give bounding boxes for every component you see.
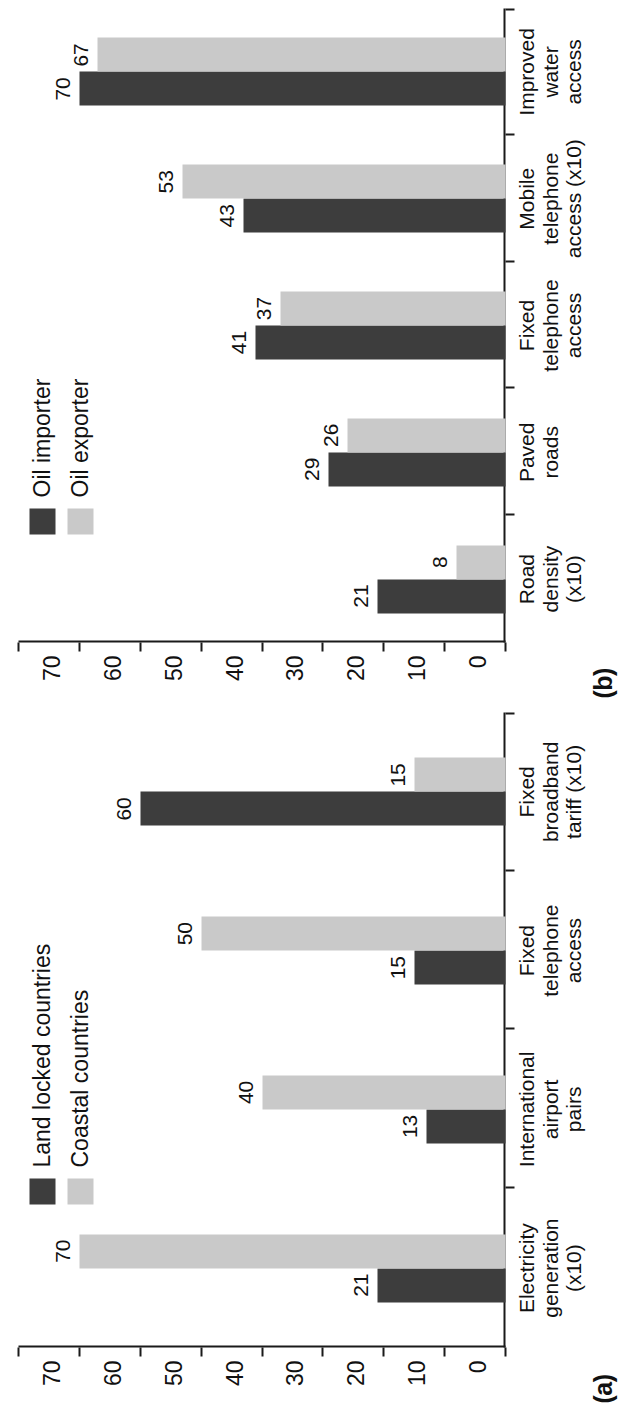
y-axis-tick <box>78 642 80 651</box>
x-axis-tick <box>505 386 514 388</box>
bar: 50 <box>201 916 505 950</box>
bar: 29 <box>328 452 505 486</box>
x-axis-tick-end <box>505 8 514 10</box>
y-axis-tick-label: 0 <box>465 1360 492 1373</box>
y-axis-tick-label: 50 <box>160 1360 187 1386</box>
y-axis-tick <box>139 1347 141 1356</box>
bar: 26 <box>347 418 505 452</box>
bar-value-label: 8 <box>427 556 451 568</box>
bar-value-label: 70 <box>50 1239 74 1262</box>
y-axis-tick-label: 20 <box>343 655 370 681</box>
bar: 21 <box>377 579 505 613</box>
bar: 67 <box>97 37 505 71</box>
y-axis-tick <box>17 1347 19 1356</box>
panel-a-plot: 010203040506070802170Electricity generat… <box>18 712 505 1347</box>
y-axis-tick-label: 40 <box>221 655 248 681</box>
bar-group: 218 <box>18 515 505 642</box>
category-label: Fixed telephone access <box>514 279 585 371</box>
bar-group: 2170 <box>18 1188 505 1347</box>
bar-value-label: 37 <box>251 296 275 319</box>
y-axis-tick <box>443 642 445 651</box>
y-axis-tick-label: 10 <box>404 655 431 681</box>
y-axis-tick <box>321 1347 323 1356</box>
y-axis-tick <box>200 642 202 651</box>
x-axis-tick <box>505 260 514 262</box>
bar: 60 <box>140 791 505 825</box>
y-axis-tick-label: 40 <box>221 1360 248 1386</box>
bar: 43 <box>243 198 505 232</box>
panel-a-tag: (a) <box>588 1374 617 1403</box>
y-axis-tick-label: 80 <box>0 655 5 681</box>
category-label: Paved roads <box>514 422 561 482</box>
bar-value-label: 67 <box>68 43 92 66</box>
bar: 70 <box>79 71 505 105</box>
category-label: Mobile telephone access (x10) <box>514 139 585 258</box>
x-axis-tick <box>505 869 514 871</box>
bar: 41 <box>255 325 505 359</box>
panel-b-plot: 01020304050607080218Road density (x10)29… <box>18 8 505 642</box>
y-axis-tick-label: 70 <box>38 655 65 681</box>
bar: 13 <box>426 1109 505 1143</box>
y-axis-tick-label: 70 <box>38 1360 65 1386</box>
y-axis-tick <box>261 1347 263 1356</box>
bar: 8 <box>456 545 505 579</box>
y-axis-tick-label: 30 <box>282 655 309 681</box>
bar-value-label: 53 <box>153 170 177 193</box>
bar-value-label: 40 <box>233 1080 257 1103</box>
category-label: International airport pairs <box>514 1051 585 1167</box>
bar-value-label: 70 <box>50 77 74 100</box>
y-axis-tick-label: 0 <box>465 655 492 668</box>
bar-value-label: 43 <box>214 204 238 227</box>
y-axis-tick <box>78 1347 80 1356</box>
y-axis-tick <box>504 1347 506 1356</box>
bar-group: 6015 <box>18 712 505 871</box>
bar-value-label: 21 <box>348 1273 372 1296</box>
bar-value-label: 60 <box>111 797 135 820</box>
panel-b: (b) Oil importerOil exporter 01020304050… <box>0 0 623 704</box>
bar-group: 1550 <box>18 871 505 1030</box>
bar: 37 <box>280 291 505 325</box>
bar-value-label: 15 <box>385 955 409 978</box>
bar-group: 4137 <box>18 262 505 389</box>
bar: 21 <box>377 1268 505 1302</box>
x-axis-tick <box>505 1028 514 1030</box>
bar-value-label: 13 <box>397 1114 421 1137</box>
bar: 15 <box>414 950 505 984</box>
y-axis-tick <box>443 1347 445 1356</box>
y-axis-tick <box>200 1347 202 1356</box>
bar-group: 4353 <box>18 135 505 262</box>
category-label: Fixed telephone access <box>514 904 585 996</box>
y-axis-tick-label: 30 <box>282 1360 309 1386</box>
figure-canvas: (a) Land locked countriesCoastal countri… <box>0 0 623 1409</box>
bar-group: 2926 <box>18 388 505 515</box>
y-axis-tick <box>261 642 263 651</box>
bar-group: 1340 <box>18 1030 505 1189</box>
bar-group: 7067 <box>18 8 505 135</box>
y-axis-tick <box>382 642 384 651</box>
bar-value-label: 26 <box>318 423 342 446</box>
bar: 15 <box>414 757 505 791</box>
y-axis-tick <box>382 1347 384 1356</box>
panel-a: (a) Land locked countriesCoastal countri… <box>0 704 623 1409</box>
y-axis-tick-label: 10 <box>404 1360 431 1386</box>
category-label: Fixed broadband tariff (x10) <box>514 741 585 841</box>
bar: 53 <box>182 164 505 198</box>
y-axis-tick-label: 60 <box>99 655 126 681</box>
y-axis-tick-label: 60 <box>99 1360 126 1386</box>
bar-value-label: 50 <box>172 921 196 944</box>
bar-value-label: 41 <box>226 330 250 353</box>
x-axis-tick-end <box>505 712 514 714</box>
panel-b-tag: (b) <box>588 668 617 698</box>
y-axis-tick <box>504 642 506 651</box>
bar: 40 <box>262 1075 506 1109</box>
category-label: Road density (x10) <box>514 545 585 612</box>
bar-value-label: 29 <box>299 457 323 480</box>
category-label: Improved water access <box>514 28 585 116</box>
y-axis-tick-label: 50 <box>160 655 187 681</box>
x-axis-tick <box>505 1186 514 1188</box>
y-axis-tick-label: 80 <box>0 1360 5 1386</box>
x-axis-tick <box>505 513 514 515</box>
category-label: Electricity generation (x10) <box>514 1218 585 1317</box>
x-axis-tick <box>505 133 514 135</box>
bar-value-label: 15 <box>385 763 409 786</box>
